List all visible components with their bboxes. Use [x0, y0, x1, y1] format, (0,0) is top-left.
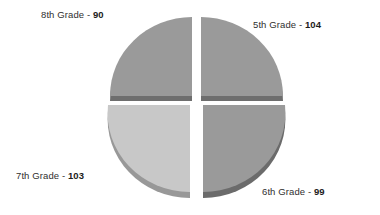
pie-chart: 8th Grade - 90 5th Grade - 104 7th Grade… [0, 0, 380, 215]
pie-slice-6th-grade[interactable] [203, 105, 285, 198]
pie-label-8th-grade-name: 8th Grade - [41, 9, 93, 20]
pie-label-5th-grade-value: 104 [305, 19, 321, 30]
pie-slice-8th-grade[interactable] [110, 17, 192, 101]
pie-slice-7th-grade[interactable] [108, 105, 190, 198]
pie-slice-7th-grade-face [108, 105, 190, 192]
pie-label-6th-grade-name: 6th Grade - [262, 186, 314, 197]
pie-label-7th-grade-name: 7th Grade - [16, 170, 68, 181]
pie-label-5th-grade: 5th Grade - 104 [253, 19, 321, 31]
pie-label-7th-grade-value: 103 [68, 170, 84, 181]
pie-label-5th-grade-name: 5th Grade - [253, 19, 305, 30]
pie-label-8th-grade-value: 90 [93, 9, 104, 20]
pie-label-7th-grade: 7th Grade - 103 [16, 170, 84, 182]
pie-label-8th-grade: 8th Grade - 90 [41, 9, 104, 21]
pie-slice-6th-grade-face [203, 105, 285, 192]
pie-label-6th-grade: 6th Grade - 99 [262, 186, 325, 198]
pie-slice-8th-grade-face [110, 17, 192, 96]
pie-chart-graphic [0, 0, 380, 215]
pie-label-6th-grade-value: 99 [314, 186, 325, 197]
